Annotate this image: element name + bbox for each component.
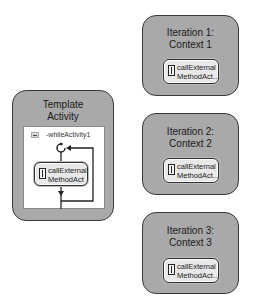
activity-label-line2: MethodAct <box>48 175 87 184</box>
activity-label-line1: callExternal <box>48 166 87 175</box>
loop-circle-icon <box>57 143 65 153</box>
activity-label-line1: callExternal <box>177 63 219 72</box>
iteration-3-title: Iteration 3: Context 3 <box>143 225 238 249</box>
iteration-2-call-external-method-activity[interactable]: callExternal MethodAct... <box>163 158 219 183</box>
iteration-3-box: Iteration 3: Context 3 callExternal Meth… <box>142 212 239 294</box>
template-activity-box: Template Activity -whileActivity1 <box>12 90 114 221</box>
iteration-2-title-line2: Context 2 <box>143 138 238 150</box>
down-arrow-icon <box>58 191 64 196</box>
loop-back-arrow-icon <box>66 145 71 151</box>
activity-label-line2: MethodAct... <box>177 72 219 81</box>
template-call-external-method-activity[interactable]: callExternal MethodAct <box>34 162 88 186</box>
template-title-line2: Activity <box>13 111 113 123</box>
activity-label-line1: callExternal <box>177 262 219 271</box>
while-activity-container: -whileActivity1 callExternal MethodAct <box>23 126 105 209</box>
activity-icon <box>168 164 175 175</box>
template-activity-title: Template Activity <box>13 99 113 123</box>
activity-label-line2: MethodAct... <box>177 171 219 180</box>
activity-icon <box>168 65 175 76</box>
template-title-line1: Template <box>13 99 113 111</box>
iteration-1-title-line1: Iteration 1: <box>143 27 238 39</box>
iteration-3-title-line1: Iteration 3: <box>143 225 238 237</box>
iteration-1-call-external-method-activity[interactable]: callExternal MethodAct... <box>163 59 219 84</box>
iteration-3-title-line2: Context 3 <box>143 237 238 249</box>
activity-label-line1: callExternal <box>177 162 219 171</box>
iteration-2-box: Iteration 2: Context 2 callExternal Meth… <box>142 113 239 195</box>
activity-icon <box>39 168 46 179</box>
iteration-1-title: Iteration 1: Context 1 <box>143 27 238 51</box>
iteration-1-box: Iteration 1: Context 1 callExternal Meth… <box>142 15 239 96</box>
iteration-2-title-line1: Iteration 2: <box>143 126 238 138</box>
iteration-3-call-external-method-activity[interactable]: callExternal MethodAct... <box>163 258 219 283</box>
activity-icon <box>168 264 175 275</box>
iteration-2-title: Iteration 2: Context 2 <box>143 126 238 150</box>
iteration-1-title-line2: Context 1 <box>143 39 238 51</box>
activity-label-line2: MethodAct... <box>177 271 219 280</box>
